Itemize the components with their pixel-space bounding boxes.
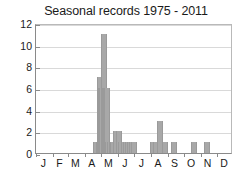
x-tick-mark [68, 153, 69, 157]
y-tick-label: 8 [2, 62, 32, 73]
x-tick-label: J [36, 158, 50, 169]
x-tick-mark [184, 153, 185, 157]
x-tick-marks [36, 25, 231, 153]
x-tick-mark [85, 153, 86, 157]
chart-figure: Seasonal records 1975 - 2011 024681012 J… [0, 0, 252, 184]
x-tick-label: O [184, 158, 198, 169]
y-tick-label: 2 [2, 127, 32, 138]
plot-area [35, 24, 232, 154]
x-tick-label: J [134, 158, 148, 169]
y-tick-label: 12 [2, 19, 32, 30]
y-axis: 024681012 [0, 24, 32, 154]
x-tick-label: F [52, 158, 66, 169]
x-tick-label: A [85, 158, 99, 169]
x-tick-label: M [68, 158, 82, 169]
x-tick-label: D [217, 158, 231, 169]
x-tick-mark [101, 153, 102, 157]
x-tick-mark [53, 153, 54, 157]
y-tick-label: 6 [2, 84, 32, 95]
x-tick-label: A [151, 158, 165, 169]
x-tick-label: J [118, 158, 132, 169]
x-tick-label: S [168, 158, 182, 169]
x-tick-mark [36, 153, 37, 157]
x-tick-mark [118, 153, 119, 157]
y-tick-label: 4 [2, 105, 32, 116]
x-tick-mark [168, 153, 169, 157]
x-tick-mark [201, 153, 202, 157]
x-tick-mark [151, 153, 152, 157]
x-tick-mark [134, 153, 135, 157]
x-axis: JFMAMJJASOND [35, 158, 232, 174]
chart-title: Seasonal records 1975 - 2011 [0, 4, 252, 18]
x-tick-label: M [101, 158, 115, 169]
x-tick-mark [217, 153, 218, 157]
y-tick-label: 10 [2, 40, 32, 51]
y-tick-label: 0 [2, 149, 32, 160]
x-tick-label: N [201, 158, 215, 169]
